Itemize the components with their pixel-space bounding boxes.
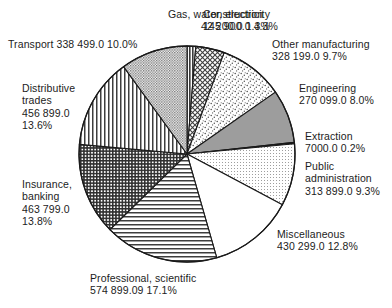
slice-label-other-manufacturing: Other manufacturing 328 199.0 9.7% — [272, 38, 392, 63]
slice-label-public-administration: Public administration 313 899.0 9.3% — [305, 160, 392, 197]
pie-chart: Gas, water, electricity 42 200.0 1.3% Co… — [0, 0, 392, 308]
slice-label-construction: Construction 145 900.0 4.3% — [203, 8, 323, 33]
slice-label-extraction: Extraction 7000.0 0.2% — [305, 130, 392, 155]
slice-label-professional-scientific: Professional, scientific 574 899.09 17.1… — [90, 272, 268, 297]
slice-label-transport: Transport 338 499.0 10.0% — [8, 38, 168, 50]
slice-label-engineering: Engineering 270 099.0 8.0% — [299, 82, 392, 107]
slice-label-miscellaneous: Miscellaneous 430 299.0 12.8% — [277, 228, 392, 253]
slice-label-insurance-banking: Insurance, banking 463 799.0 13.8% — [22, 178, 118, 228]
slice-label-distributive-trades: Distributive trades 456 899.0 13.6% — [22, 82, 114, 132]
